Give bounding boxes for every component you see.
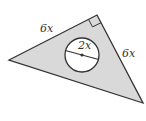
- label-diameter: 2x: [77, 39, 92, 52]
- triangle-circle-diagram: 6x 6x 2x: [0, 0, 146, 121]
- label-left-leg: 6x: [40, 22, 54, 35]
- label-right-leg: 6x: [122, 47, 136, 60]
- center-point: [80, 53, 83, 56]
